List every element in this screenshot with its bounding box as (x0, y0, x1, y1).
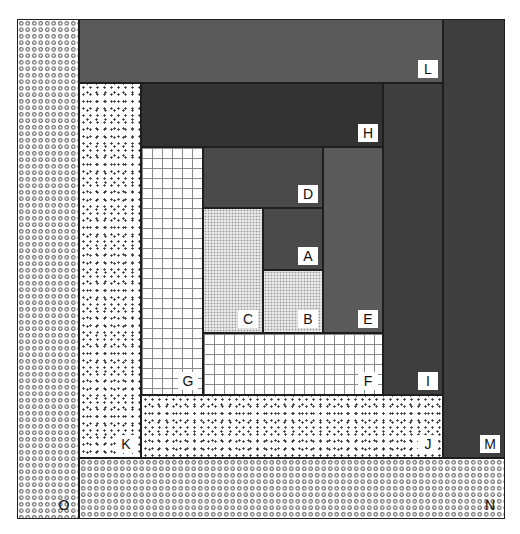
block-o-label: O (54, 496, 74, 514)
block-n-label: N (480, 496, 500, 514)
block-h-label: H (358, 124, 378, 142)
block-b-label: B (298, 310, 318, 328)
block-f: F (203, 333, 383, 395)
block-b: B (263, 270, 323, 333)
block-n: N (79, 458, 505, 519)
block-m-label: M (480, 435, 500, 453)
block-f-label: F (358, 372, 378, 390)
block-j-label: J (418, 435, 438, 453)
block-e: E (323, 147, 383, 333)
block-o: O (17, 19, 79, 519)
block-j: J (141, 395, 443, 458)
block-l-label: L (418, 60, 438, 78)
block-g-label: G (178, 372, 198, 390)
block-g: G (141, 147, 203, 395)
block-m: M (443, 19, 505, 458)
block-d: D (203, 147, 323, 208)
block-e-label: E (358, 310, 378, 328)
block-k: K (79, 83, 141, 458)
block-c: C (203, 208, 263, 333)
block-a-label: A (298, 247, 318, 265)
block-h: H (141, 83, 383, 147)
block-d-label: D (298, 185, 318, 203)
block-k-label: K (116, 435, 136, 453)
block-i: I (383, 83, 443, 395)
block-i-label: I (418, 372, 438, 390)
block-l: L (79, 19, 443, 83)
block-c-label: C (238, 310, 258, 328)
block-a: A (263, 208, 323, 270)
